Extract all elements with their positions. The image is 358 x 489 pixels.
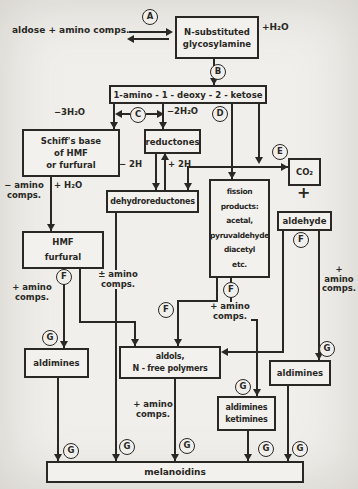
connector xyxy=(223,351,283,353)
label-plus-2h: + 2H xyxy=(168,160,191,170)
connector xyxy=(287,386,289,461)
step-circle-g-bottom-5: G xyxy=(292,441,308,457)
step-circle-f-hmf: F xyxy=(56,269,72,285)
label-plus-sign: + xyxy=(297,188,310,198)
connector xyxy=(258,104,260,160)
step-circle-e: E xyxy=(272,144,288,160)
arrowhead-down xyxy=(110,122,118,129)
label-minus-amino-comps: − amino comps. xyxy=(3,181,45,200)
connector xyxy=(79,321,136,323)
label-plus-amino-left: + amino comps. xyxy=(10,283,54,302)
arrowhead-left xyxy=(115,110,122,118)
connector xyxy=(216,277,218,302)
connector xyxy=(79,268,81,323)
label-plus-amino-right: + amino comps. xyxy=(321,265,357,294)
connector xyxy=(50,177,52,231)
arrowhead-down xyxy=(54,454,62,461)
arrowhead-down xyxy=(60,341,68,348)
box-dehydroreductones: dehydroreductones xyxy=(106,190,199,213)
arrowhead-left xyxy=(127,35,134,43)
connector xyxy=(174,379,176,461)
step-circle-g-left: G xyxy=(42,330,58,346)
arrowhead-down xyxy=(228,172,236,179)
arrowhead-right xyxy=(281,163,288,171)
connector xyxy=(57,378,59,461)
arrowhead-right xyxy=(166,28,173,36)
step-circle-b: B xyxy=(210,64,226,80)
label-plus-amino-bottom: + amino comps. xyxy=(131,400,175,419)
connector xyxy=(133,38,169,40)
box-ketose: 1-amino - 1 - deoxy - 2 - ketose xyxy=(109,85,267,104)
connector xyxy=(256,319,258,396)
arrowhead-down xyxy=(184,183,192,190)
step-circle-d: D xyxy=(212,106,228,122)
box-aldimines-right: aldimines xyxy=(269,360,331,386)
step-circle-g-bottom-1: G xyxy=(63,443,79,459)
box-glycosylamine: N-substituted glycosylamine xyxy=(175,16,259,59)
step-circle-g-bottom-2: G xyxy=(119,439,135,455)
connector xyxy=(115,213,117,461)
box-melanoidins: melanoidins xyxy=(46,461,304,483)
connector xyxy=(129,31,167,33)
step-circle-g-bottom-4: G xyxy=(258,441,274,457)
label-plus-amino-mid: + amino comps. xyxy=(209,302,251,321)
arrowhead-down xyxy=(159,122,167,129)
connector xyxy=(282,230,284,353)
arrowhead-down xyxy=(171,454,179,461)
label-plus-minus-amino: ± amino comps. xyxy=(96,270,140,289)
box-aldols-polymers: aldols, N - free polymers xyxy=(119,346,221,379)
arrowhead-down xyxy=(244,454,252,461)
box-aldimines-left: aldimines xyxy=(24,348,89,378)
step-circle-a: A xyxy=(142,9,158,25)
arrowhead-right xyxy=(157,110,164,118)
label-reactants: aldose + amino comps. xyxy=(12,26,129,36)
arrowhead-down xyxy=(47,224,55,231)
step-circle-f-mid: F xyxy=(158,302,174,318)
arrowhead-down xyxy=(112,454,120,461)
arrowhead-down xyxy=(255,157,263,164)
box-schiffs-base: Schiff's base of HMF or furfural xyxy=(22,129,120,177)
connector xyxy=(187,166,288,168)
box-aldehyde: aldehyde xyxy=(277,211,332,231)
label-minus-3h2o: −3H₂O xyxy=(54,108,85,118)
box-reductones: reductones xyxy=(144,129,201,154)
arrowhead-down xyxy=(131,339,139,346)
maillard-reaction-diagram: N-substituted glycosylamine 1-amino - 1 … xyxy=(0,0,358,489)
step-circle-g-bottom-3: G xyxy=(179,438,195,454)
label-minus-2h2o: −2H₂O xyxy=(167,107,198,117)
box-co2: CO₂ xyxy=(288,158,321,186)
step-circle-f-fission: F xyxy=(223,282,239,298)
label-plus-h2o-top: +H₂O xyxy=(262,23,289,33)
step-circle-g-ketimines: G xyxy=(235,379,251,395)
box-hmf-furfural: HMF furfural xyxy=(22,231,104,269)
step-circle-f-aldehyde: F xyxy=(293,232,309,248)
arrowhead-left xyxy=(221,348,228,356)
arrowhead-down xyxy=(253,389,261,396)
connector xyxy=(318,230,320,360)
label-plus-h2o-left: + H₂O xyxy=(54,181,82,191)
label-minus-2h: − 2H xyxy=(119,160,142,170)
arrowhead-down xyxy=(174,339,182,346)
box-fission-products: fission products: acetal, pyruvaldehyde … xyxy=(209,179,270,278)
box-aldimines-ketimines: aldimines ketimines xyxy=(217,396,276,431)
step-circle-c: C xyxy=(130,107,146,123)
arrowhead-down xyxy=(152,183,160,190)
arrowhead-down xyxy=(284,454,292,461)
step-circle-g-right: G xyxy=(319,341,335,357)
